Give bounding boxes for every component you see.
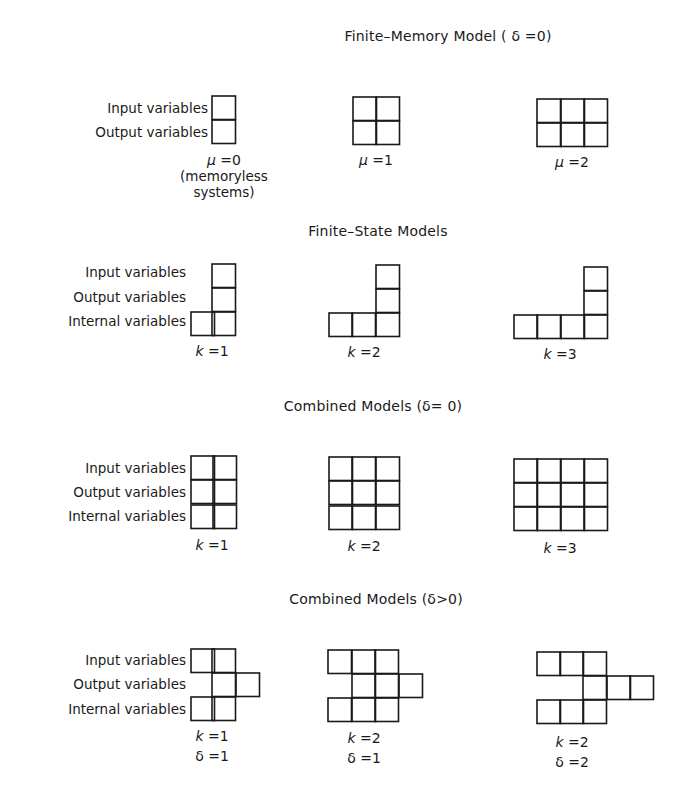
section-title-combined-positive: Combined Models (δ>0) bbox=[289, 591, 463, 607]
grid-cell bbox=[328, 650, 352, 674]
grid-cell bbox=[561, 507, 585, 531]
variable-grid-combined-positive-2 bbox=[537, 652, 654, 724]
parameter-symbol: k bbox=[543, 540, 551, 556]
parameter-symbol: k bbox=[543, 346, 551, 362]
grid-cell bbox=[561, 123, 585, 147]
grid-cell bbox=[375, 698, 399, 722]
grid-cell bbox=[212, 288, 236, 312]
parameter-value: =2 bbox=[564, 734, 589, 750]
grid-cell bbox=[560, 700, 584, 724]
grid-cell bbox=[584, 267, 608, 291]
grid-cell bbox=[212, 264, 236, 288]
grid-cell bbox=[352, 698, 376, 722]
parameter-symbol: k bbox=[347, 344, 355, 360]
parameter-value: =2 bbox=[564, 154, 589, 170]
parameter-caption: k =2 bbox=[347, 538, 380, 554]
variable-grid-combined-positive-0 bbox=[191, 649, 260, 721]
parameter-caption: k =3 bbox=[543, 346, 576, 362]
parameter-value: =2 bbox=[356, 538, 381, 554]
parameter-symbol: k bbox=[195, 728, 203, 744]
grid-cell bbox=[352, 481, 376, 505]
parameter-caption: k =3 bbox=[543, 540, 576, 556]
parameter-caption: k =1 bbox=[195, 728, 228, 744]
grid-cell bbox=[583, 700, 607, 724]
grid-cell bbox=[561, 483, 585, 507]
grid-cell bbox=[584, 507, 608, 531]
grid-cell bbox=[353, 97, 377, 121]
parameter-symbol: μ bbox=[207, 152, 216, 168]
parameter-symbol: k bbox=[555, 734, 563, 750]
grid-cell bbox=[537, 99, 561, 123]
grid-cell bbox=[584, 315, 608, 339]
parameter-symbol: k bbox=[347, 538, 355, 554]
parameter-caption: k =1 bbox=[195, 537, 228, 553]
grid-cell bbox=[583, 652, 607, 676]
grid-cell bbox=[607, 676, 631, 700]
grid-cell bbox=[561, 315, 585, 339]
grid-cell bbox=[514, 483, 538, 507]
parameter-caption: k =2 bbox=[347, 730, 380, 746]
row-label: Output variables bbox=[73, 484, 186, 500]
grid-cell bbox=[376, 481, 400, 505]
row-label: Internal variables bbox=[68, 508, 186, 524]
grid-cell bbox=[212, 312, 236, 336]
delay-symbol: δ =1 bbox=[195, 748, 229, 764]
grid-cell bbox=[191, 697, 215, 721]
variable-grid-finite-state-1 bbox=[329, 265, 400, 337]
variable-grid-finite-state-2 bbox=[514, 267, 608, 339]
grid-cell bbox=[375, 650, 399, 674]
parameter-value: =3 bbox=[552, 540, 577, 556]
delay-caption: δ =2 bbox=[555, 754, 589, 770]
grid-cell bbox=[584, 483, 608, 507]
variable-grid-combined-zero-1 bbox=[329, 457, 400, 530]
grid-cell bbox=[399, 674, 423, 698]
variable-grid-finite-memory-2 bbox=[537, 99, 608, 147]
delay-symbol: δ =2 bbox=[555, 754, 589, 770]
grid-cell bbox=[352, 506, 376, 530]
parameter-caption: μ =1 bbox=[359, 152, 393, 168]
grid-cell bbox=[514, 507, 538, 531]
grid-cell bbox=[352, 313, 376, 337]
variable-grid-combined-positive-1 bbox=[328, 650, 423, 722]
grid-cell bbox=[376, 506, 400, 530]
grid-cell bbox=[191, 480, 215, 504]
grid-cell bbox=[537, 700, 561, 724]
parameter-value: =1 bbox=[204, 537, 229, 553]
grid-cell bbox=[584, 459, 608, 483]
grid-cell bbox=[376, 457, 400, 481]
parameter-symbol: k bbox=[195, 343, 203, 359]
parameter-value: =2 bbox=[356, 344, 381, 360]
section-title-finite-memory: Finite–Memory Model ( δ =0) bbox=[344, 28, 551, 44]
parameter-value: =2 bbox=[356, 730, 381, 746]
grid-cell bbox=[353, 121, 377, 145]
delay-caption: δ =1 bbox=[347, 750, 381, 766]
parameter-symbol: k bbox=[195, 537, 203, 553]
row-label: Output variables bbox=[95, 124, 208, 140]
parameter-caption: k =2 bbox=[555, 734, 588, 750]
grid-cell bbox=[537, 123, 561, 147]
grid-cell bbox=[329, 457, 353, 481]
grid-cell bbox=[352, 650, 376, 674]
grid-cell bbox=[212, 673, 236, 697]
parameter-caption: μ =2 bbox=[555, 154, 589, 170]
parameter-value: =1 bbox=[204, 343, 229, 359]
parameter-value: =1 bbox=[368, 152, 393, 168]
grid-cell bbox=[630, 676, 654, 700]
grid-cell bbox=[213, 480, 237, 504]
parameter-caption: k =2 bbox=[347, 344, 380, 360]
grid-cell bbox=[191, 456, 215, 480]
row-label: Output variables bbox=[73, 289, 186, 305]
variable-grid-combined-zero-0 bbox=[191, 456, 237, 529]
grid-cell bbox=[376, 121, 400, 145]
parameter-value: =3 bbox=[552, 346, 577, 362]
grid-cell bbox=[584, 99, 608, 123]
parameter-symbol: k bbox=[347, 730, 355, 746]
grid-cell bbox=[213, 456, 237, 480]
row-label: Input variables bbox=[85, 264, 186, 280]
grid-cell bbox=[212, 649, 236, 673]
grid-cell bbox=[329, 481, 353, 505]
grid-cell bbox=[537, 459, 561, 483]
grid-cell bbox=[329, 506, 353, 530]
grid-cell bbox=[584, 123, 608, 147]
grid-cell bbox=[352, 674, 376, 698]
